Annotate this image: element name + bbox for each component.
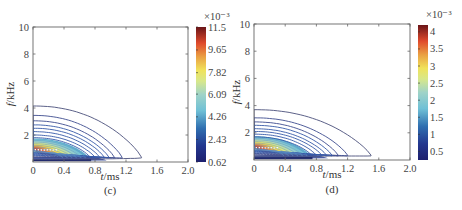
x-tick-label: 0.4 [279, 163, 293, 174]
y-tick-label: 8 [24, 49, 29, 60]
colorbar-tick-label: 0.62 [208, 157, 226, 168]
y-tick-label: 10 [240, 19, 251, 30]
panel-label: (c) [104, 184, 117, 197]
colorbar-tick-label: 0.5 [430, 146, 443, 157]
colorbar-tick-label: 9.65 [208, 44, 226, 55]
colorbar-tick-label: 3.5 [430, 43, 443, 54]
x-tick-label: 1.6 [150, 165, 163, 176]
x-tick-label: 2.0 [403, 163, 416, 174]
y-tick-label: 6 [245, 73, 250, 84]
y-axis-label: f/kHz [230, 80, 242, 105]
y-tick-label: 4 [24, 103, 30, 114]
y-tick-label: 2 [24, 130, 29, 141]
x-tick-label: 2.0 [181, 165, 194, 176]
x-tick-label: 0 [251, 163, 256, 174]
x-tick-label: 0.4 [57, 165, 71, 176]
figure: 00.40.81.21.62.0246810 t/ms f/kHz (c) 11… [0, 0, 462, 210]
colorbar [418, 25, 428, 160]
colorbar-tick-label: 2.5 [430, 78, 443, 89]
panel-label: (d) [326, 183, 339, 196]
colorbar-tick-label: 2.43 [208, 134, 226, 145]
colorbar-tick-label: 3 [430, 61, 435, 72]
contour-band-lowest [254, 157, 313, 159]
colorbar-tick-label: 1 [430, 129, 435, 140]
colorbar-exponent: ×10⁻³ [426, 9, 452, 20]
y-tick-label: 4 [245, 100, 251, 111]
x-tick-label: 1.6 [372, 163, 385, 174]
colorbar-exponent: ×10⁻³ [204, 11, 230, 22]
x-tick-label: 1.2 [119, 165, 132, 176]
colorbar-tick-label: 6.09 [208, 89, 226, 100]
x-tick-label: 0.8 [310, 163, 323, 174]
y-tick-label: 10 [19, 22, 30, 33]
x-tick-label: 0 [30, 165, 35, 176]
x-axis-label: t/ms [323, 168, 342, 180]
colorbar-tick-label: 7.82 [208, 67, 226, 78]
colorbar-tick-label: 4 [430, 26, 436, 37]
panel-d: 00.40.81.21.62.0246810 t/ms f/kHz (d) 43… [230, 9, 452, 196]
panel-c: 00.40.81.21.62.0246810 t/ms f/kHz (c) 11… [4, 11, 230, 197]
colorbar-tick-label: 11.5 [208, 22, 226, 33]
colorbar-tick-label: 1.5 [430, 112, 443, 123]
colorbar [196, 27, 206, 162]
colorbar-tick-label: 2 [430, 95, 435, 106]
y-tick-label: 6 [24, 76, 29, 87]
x-axis-label: t/ms [101, 170, 120, 182]
colorbar-tick-label: 4.26 [208, 111, 226, 122]
y-axis-label: f/kHz [4, 82, 16, 107]
x-tick-label: 1.2 [341, 163, 354, 174]
y-tick-label: 8 [245, 46, 250, 57]
y-tick-label: 2 [245, 127, 250, 138]
